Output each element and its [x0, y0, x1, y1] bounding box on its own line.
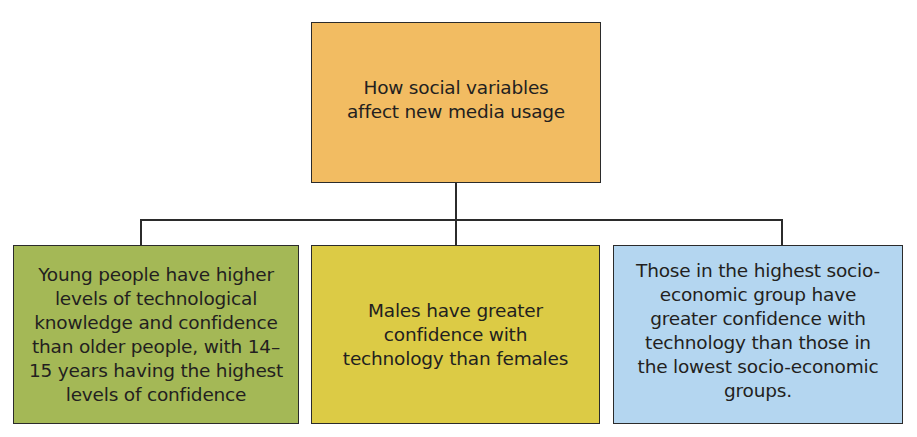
child-node-socioeconomic: Those in the highest socio-economic grou…	[613, 245, 903, 424]
child-node-age-text: Young people have higher levels of techn…	[24, 263, 288, 407]
child-node-socioeconomic-text: Those in the highest socio-economic grou…	[630, 259, 886, 403]
connector-drop-right	[781, 219, 783, 246]
connector-drop-left	[140, 219, 142, 246]
connector-horizontal-bar	[140, 219, 783, 221]
connector-root-stem	[455, 182, 457, 246]
child-node-age: Young people have higher levels of techn…	[13, 245, 299, 424]
root-node: How social variables affect new media us…	[311, 22, 601, 183]
child-node-gender: Males have greater confidence with techn…	[311, 245, 600, 424]
child-node-gender-text: Males have greater confidence with techn…	[342, 299, 569, 371]
root-node-text: How social variables affect new media us…	[340, 76, 572, 124]
